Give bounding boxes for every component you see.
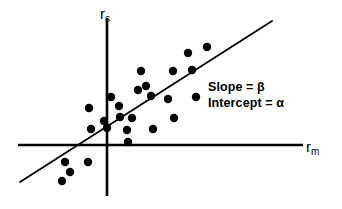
scatter-point <box>100 117 108 125</box>
scatter-point <box>169 67 177 75</box>
scatter-point <box>116 113 124 121</box>
scatter-point <box>203 43 211 51</box>
plot-canvas <box>0 0 342 209</box>
scatter-point <box>85 104 93 112</box>
scatter-point <box>134 86 142 94</box>
x-axis-label: rm <box>306 139 319 154</box>
intercept-annotation: Intercept = α <box>208 95 284 111</box>
scatter-point <box>137 67 145 75</box>
scatter-point <box>147 92 155 100</box>
scatter-point <box>149 125 157 133</box>
scatter-point <box>87 125 95 133</box>
scatter-point <box>123 126 131 134</box>
scatter-points-group <box>58 43 211 185</box>
scatter-plot-figure: rs rm Slope = β Intercept = α <box>0 0 342 209</box>
scatter-point <box>184 49 192 57</box>
y-axis-label-subscript: s <box>105 13 110 24</box>
slope-annotation: Slope = β <box>208 79 284 95</box>
scatter-point <box>58 177 66 185</box>
scatter-point <box>66 168 74 176</box>
scatter-point <box>164 95 172 103</box>
y-axis-label: rs <box>100 6 110 21</box>
scatter-point <box>84 158 92 166</box>
scatter-point <box>124 138 132 146</box>
scatter-point <box>115 102 123 110</box>
scatter-point <box>142 82 150 90</box>
scatter-point <box>128 114 136 122</box>
scatter-point <box>192 93 200 101</box>
x-axis-label-subscript: m <box>311 146 319 157</box>
scatter-point <box>188 66 196 74</box>
scatter-point <box>170 114 178 122</box>
scatter-point <box>107 93 115 101</box>
annotation-block: Slope = β Intercept = α <box>208 79 284 112</box>
scatter-point <box>61 158 69 166</box>
